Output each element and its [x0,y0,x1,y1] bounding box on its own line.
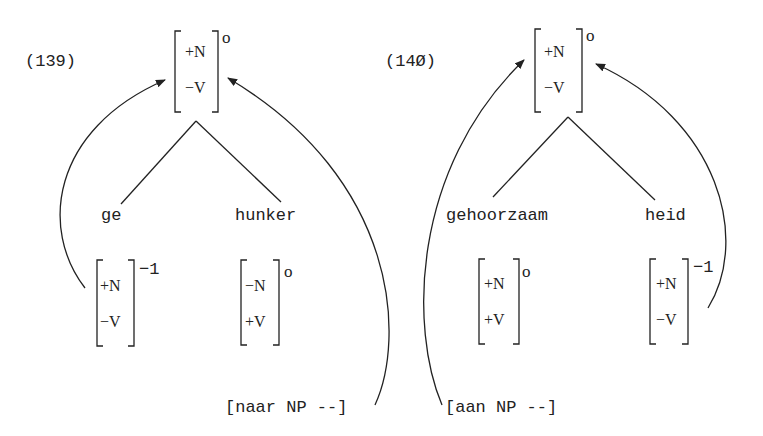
branch-left-140 [493,117,568,197]
arrow-ge-to-root [60,80,165,288]
subcat-frame-140: [aan NP --] [445,398,557,417]
feature-n: +N [100,268,132,304]
hunker-level: o [284,262,293,282]
word-ge: ge [101,206,121,225]
gehoorzaam-features: +N +V [484,266,516,338]
feature-v: +V [484,302,516,338]
arrow-frame-to-root-139 [228,78,389,405]
hunker-features: −N +V [245,268,277,340]
heid-level: −1 [693,258,713,277]
root-level-139: o [222,28,231,48]
example-number-139: (139) [25,52,76,71]
feature-v: +V [245,304,277,340]
feature-n: +N [484,266,516,302]
gehoorzaam-level: o [522,262,531,282]
root-features-140: +N −V [544,34,576,106]
branch-left-139 [121,121,196,204]
feature-v: −V [544,70,576,106]
branch-right-139 [196,121,281,202]
feature-n: −N [245,268,277,304]
arrow-frame-to-root-140 [424,60,524,405]
feature-v: −V [185,70,215,106]
word-heid: heid [645,206,686,225]
feature-n: +N [544,34,576,70]
subcat-frame-139: [naar NP --] [225,398,347,417]
root-level-140: o [586,26,595,46]
feature-n: +N [656,266,688,302]
feature-v: −V [656,302,688,338]
feature-n: +N [185,34,215,70]
root-features-139: +N −V [185,34,215,106]
example-number-140: (14Ø) [385,52,436,71]
heid-features: +N −V [656,266,688,338]
ge-level: −1 [139,260,159,279]
word-hunker: hunker [235,206,296,225]
feature-v: −V [100,304,132,340]
word-gehoorzaam: gehoorzaam [446,206,548,225]
ge-features: +N −V [100,268,132,340]
branch-right-140 [568,117,655,200]
